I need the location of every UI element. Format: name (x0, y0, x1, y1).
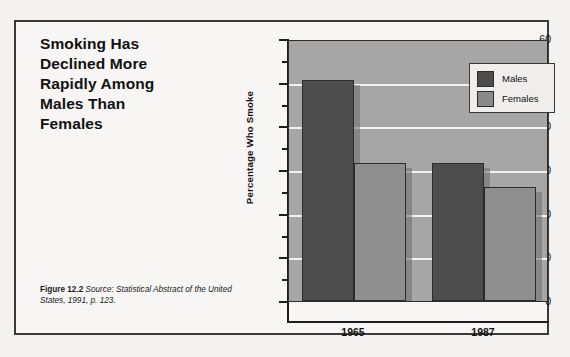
bar-chart: Percentage Who Smoke 0102030405060 19651… (228, 22, 551, 337)
y-tick-major-50 (279, 83, 288, 85)
chart-legend: Males Females (469, 63, 555, 113)
y-tick-major-0 (279, 301, 288, 303)
legend-swatch-females-icon (477, 91, 494, 107)
bar-males-1965 (302, 80, 354, 301)
bar-males-1987 (432, 163, 484, 301)
bar-shadow (406, 168, 412, 301)
y-tick-major-40 (279, 126, 288, 128)
y-axis-title: Percentage Who Smoke (244, 83, 255, 213)
legend-label-females: Females (502, 93, 538, 104)
y-tick-major-60 (279, 39, 288, 41)
bar-females-1987 (484, 187, 536, 301)
x-axis-label-1965: 1965 (288, 326, 418, 338)
title-line-3: Rapidly Among (40, 74, 230, 94)
title-line-4: Males Than (40, 94, 230, 114)
bar-females-1965 (354, 163, 406, 301)
caption-label: Figure 12.2 (40, 285, 83, 294)
figure-title: Smoking Has Declined More Rapidly Among … (40, 34, 230, 134)
x-axis-label-1987: 1987 (418, 326, 548, 338)
legend-swatch-males-icon (477, 71, 494, 87)
y-tick-major-20 (279, 214, 288, 216)
y-tick-major-30 (279, 170, 288, 172)
title-line-5: Females (40, 114, 230, 134)
bar-shadow (536, 192, 542, 301)
legend-label-males: Males (502, 73, 527, 84)
x-axis-line (287, 321, 549, 323)
figure-frame: Smoking Has Declined More Rapidly Among … (14, 20, 549, 335)
figure-caption: Figure 12.2 Source: Statistical Abstract… (40, 284, 240, 306)
title-line-1: Smoking Has (40, 34, 230, 54)
plot-area: Males Females (288, 40, 548, 302)
title-line-2: Declined More (40, 54, 230, 74)
y-tick-major-10 (279, 257, 288, 259)
